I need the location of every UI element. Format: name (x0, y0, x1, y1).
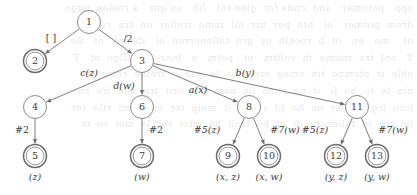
node-13[interactable]: 13 (366, 145, 389, 168)
arrowhead-3-11 (340, 101, 345, 105)
edge-label-3-6: d(w) (113, 80, 135, 91)
node-1-label: 1 (86, 16, 92, 27)
node-11[interactable]: 11 (346, 96, 369, 119)
node-2[interactable]: 2 (24, 50, 47, 73)
node-11-label: 11 (351, 101, 363, 112)
node-7-caption: (w) (134, 171, 150, 182)
node-5[interactable]: 5 (24, 145, 47, 168)
node-3-label: 3 (139, 55, 145, 66)
node-2-label: 2 (32, 55, 38, 66)
edge-label-3-11: b(y) (236, 67, 255, 78)
node-13-label: 13 (371, 150, 383, 161)
edge-label-layer: [ ]/2c(z)d(w)a(x)b(y)#2#2#5(z)#7(w)#5(z)… (15, 32, 408, 135)
edge-label-8-10: #7(w) (270, 124, 300, 135)
node-3[interactable]: 3 (131, 50, 154, 73)
node-4[interactable]: 4 (24, 96, 47, 119)
node-9[interactable]: 9 (217, 145, 240, 168)
edge-label-1-3: /2 (123, 33, 132, 44)
node-5-caption: (z) (29, 171, 42, 182)
edge-label-1-2: [ ] (46, 32, 56, 43)
edge-label-3-4: c(z) (80, 67, 98, 78)
node-4-label: 4 (32, 101, 38, 112)
node-1[interactable]: 1 (78, 11, 101, 34)
node-12[interactable]: 12 (325, 145, 348, 168)
node-10-caption: (x, w) (256, 171, 283, 182)
node-10-label: 10 (263, 150, 275, 161)
arrowhead-1-3 (127, 49, 132, 53)
tree-diagram: [ ]/2c(z)d(w)a(x)b(y)#2#2#5(z)#7(w)#5(z)… (0, 0, 417, 195)
node-10[interactable]: 10 (258, 145, 281, 168)
arrowhead-6-7 (140, 139, 144, 144)
node-13-caption: (y, w) (364, 171, 390, 182)
node-7[interactable]: 7 (131, 145, 154, 168)
edge-label-6-7: #2 (149, 124, 163, 135)
node-8[interactable]: 8 (238, 96, 261, 119)
node-12-label: 12 (330, 150, 342, 161)
edge-label-3-8: a(x) (189, 84, 208, 95)
node-8-label: 8 (246, 101, 252, 112)
arrowhead-4-5 (33, 139, 37, 144)
node-5-label: 5 (32, 150, 38, 161)
node-6-label: 6 (139, 101, 145, 112)
node-9-label: 9 (225, 150, 231, 161)
arrowhead-3-6 (140, 90, 144, 95)
leaf-caption-layer: (z)(w)(x, z)(x, w)(y, z)(y, w) (29, 171, 390, 182)
node-9-caption: (x, z) (216, 171, 240, 182)
edge-label-4-5: #2 (15, 124, 29, 135)
node-12-caption: (y, z) (325, 171, 348, 182)
edge-label-8-9: #5(z) (194, 124, 221, 135)
arrowhead-1-2 (45, 49, 50, 53)
node-7-label: 7 (139, 150, 145, 161)
node-6[interactable]: 6 (131, 96, 154, 119)
edge-label-11-12: #5(z) (302, 124, 329, 135)
edge-label-11-13: #7(w) (378, 124, 408, 135)
